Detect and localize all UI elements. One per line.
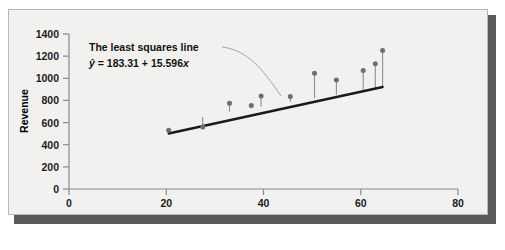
y-tick-label-600: 600 — [41, 117, 59, 129]
x-tick-label-40: 40 — [258, 197, 270, 209]
data-point — [380, 48, 385, 53]
y-axis: 1400 1200 1000 800 600 400 200 0 Revenue — [18, 28, 69, 195]
annotation-leader-line — [222, 47, 281, 96]
x-axis-title: Population — [236, 213, 290, 214]
y-tick-label-1200: 1200 — [36, 50, 60, 62]
x-tick-label-60: 60 — [355, 197, 367, 209]
data-point — [166, 128, 171, 133]
annotation-line-1: The least squares line — [89, 41, 199, 53]
data-point — [334, 77, 339, 82]
x-tick-label-80: 80 — [452, 197, 464, 209]
data-point — [200, 125, 205, 130]
data-point — [227, 101, 232, 106]
y-tick-label-1000: 1000 — [36, 72, 60, 84]
data-point — [288, 94, 293, 99]
data-point — [373, 61, 378, 66]
x-tick-label-20: 20 — [160, 197, 172, 209]
y-tick-label-200: 200 — [41, 161, 59, 173]
residual-lines-group — [169, 51, 383, 134]
y-axis-title: Revenue — [18, 89, 30, 133]
data-point — [249, 103, 254, 108]
y-tick-label-1400: 1400 — [36, 28, 60, 40]
svg-text:ŷ = 183.31 + 15.596x: ŷ = 183.31 + 15.596x — [88, 57, 190, 69]
data-point — [361, 68, 366, 73]
y-tick-label-800: 800 — [41, 94, 59, 106]
annotation-equation-body: = 183.31 + 15.596 — [95, 57, 183, 69]
scatter-plot-svg: 1400 1200 1000 800 600 400 200 0 Revenue — [9, 10, 487, 214]
data-point — [259, 94, 264, 99]
annotation-x-variable: x — [182, 57, 190, 69]
figure-root: 1400 1200 1000 800 600 400 200 0 Revenue — [0, 0, 505, 250]
chart-panel: 1400 1200 1000 800 600 400 200 0 Revenue — [8, 9, 488, 215]
x-axis: 0 20 40 60 80 — [66, 189, 464, 209]
least-squares-annotation: The least squares line ŷ = 183.31 + 15.5… — [88, 41, 199, 69]
data-points-group — [166, 48, 385, 133]
data-point — [312, 71, 317, 76]
y-tick-label-400: 400 — [41, 139, 59, 151]
annotation-line-2: ŷ = 183.31 + 15.596x — [88, 57, 190, 69]
y-tick-label-0: 0 — [53, 183, 59, 195]
x-tick-label-0: 0 — [66, 197, 72, 209]
